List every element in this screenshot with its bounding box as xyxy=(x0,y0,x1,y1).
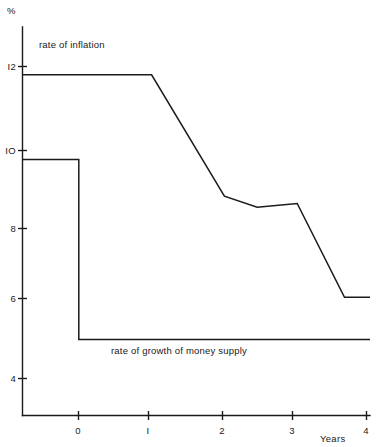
inflation-money-supply-chart: % I2 IO 8 6 4 0 I 2 3 4 Years rate of in… xyxy=(0,0,384,447)
x-tick-label-1: I xyxy=(140,426,156,436)
y-tick-label-8: 8 xyxy=(0,224,16,234)
y-tick-label-4: 4 xyxy=(0,374,16,384)
series-line-money-supply-growth xyxy=(22,159,370,339)
y-tick-label-10: IO xyxy=(0,146,16,156)
annotation-rate-of-inflation: rate of inflation xyxy=(39,40,105,50)
x-tick-label-2: 2 xyxy=(214,426,230,436)
x-axis-title: Years xyxy=(320,434,345,444)
y-tick-label-6: 6 xyxy=(0,294,16,304)
x-tick-label-3: 3 xyxy=(284,426,300,436)
y-axis-title: % xyxy=(7,6,16,16)
x-tick-label-4: 4 xyxy=(358,426,374,436)
annotation-money-supply-growth: rate of growth of money supply xyxy=(111,346,247,356)
x-tick-label-0: 0 xyxy=(70,426,86,436)
chart-plot-area xyxy=(0,0,384,447)
series-line-rate-of-inflation xyxy=(22,75,370,297)
y-tick-label-12: I2 xyxy=(0,62,16,72)
